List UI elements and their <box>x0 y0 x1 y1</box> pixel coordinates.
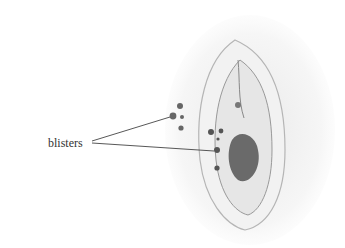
leader-line-upper <box>92 117 170 141</box>
anatomical-illustration <box>0 0 345 248</box>
annotation-label: blisters <box>48 136 83 151</box>
illustration-canvas: blisters <box>0 0 345 248</box>
